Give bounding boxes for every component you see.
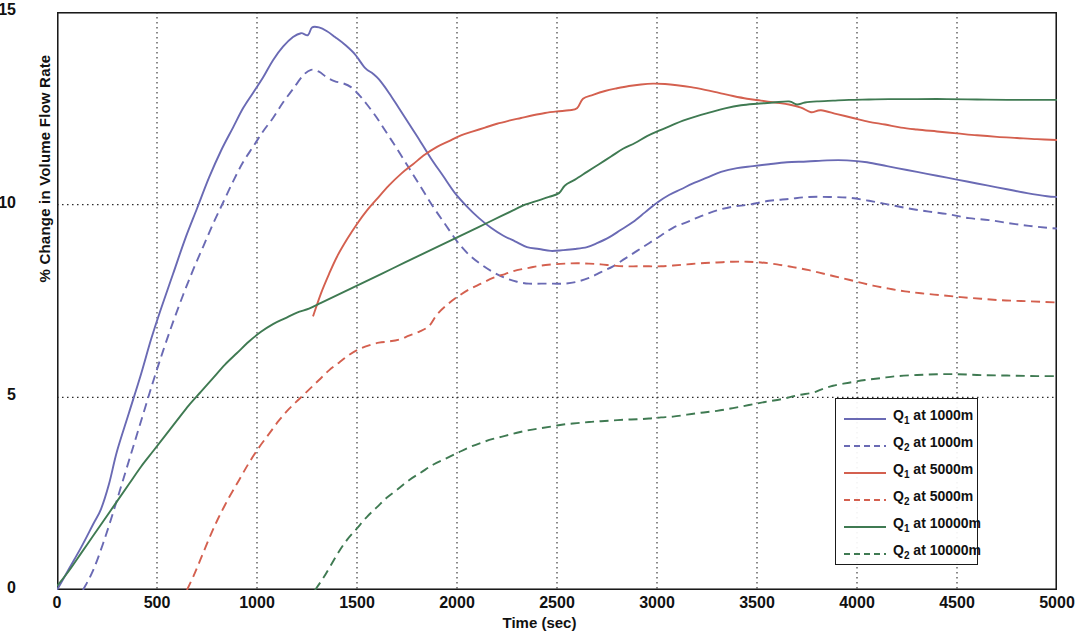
x-tick-label: 4500 <box>917 594 997 612</box>
legend-label: Q2 at 10000m <box>893 542 981 561</box>
legend-swatch <box>843 411 887 423</box>
chart-legend: Q1 at 1000mQ2 at 1000mQ1 at 5000mQ2 at 5… <box>835 398 978 565</box>
legend-label: Q1 at 1000m <box>893 407 973 426</box>
x-tick-label: 1500 <box>317 594 397 612</box>
x-tick-label: 0 <box>17 594 97 612</box>
x-tick-label: 5000 <box>1017 594 1079 612</box>
x-tick-label: 3500 <box>717 594 797 612</box>
y-tick-label: 10 <box>0 194 16 212</box>
legend-item-0: Q1 at 1000m <box>836 403 977 430</box>
x-tick-label: 3000 <box>617 594 697 612</box>
legend-label: Q1 at 10000m <box>893 515 981 534</box>
x-tick-label: 1000 <box>217 594 297 612</box>
series-line-2 <box>313 84 1057 317</box>
x-tick-label: 500 <box>117 594 197 612</box>
y-tick-label: 15 <box>0 1 16 19</box>
legend-label: Q2 at 5000m <box>893 488 973 507</box>
y-axis-label: % Change in Volume Flow Rate <box>36 29 53 309</box>
x-tick-label: 2000 <box>417 594 497 612</box>
legend-label: Q1 at 5000m <box>893 461 973 480</box>
legend-swatch <box>843 492 887 504</box>
legend-label: Q2 at 1000m <box>893 434 973 453</box>
x-tick-label: 4000 <box>817 594 897 612</box>
legend-swatch <box>843 438 887 450</box>
y-tick-label: 5 <box>0 386 16 404</box>
legend-swatch <box>843 519 887 531</box>
y-tick-label: 0 <box>0 579 16 597</box>
legend-item-1: Q2 at 1000m <box>836 430 977 457</box>
legend-item-5: Q2 at 10000m <box>836 538 977 565</box>
x-axis-label: Time (sec) <box>0 614 1079 631</box>
x-tick-label: 2500 <box>517 594 597 612</box>
legend-item-3: Q2 at 5000m <box>836 484 977 511</box>
legend-item-2: Q1 at 5000m <box>836 457 977 484</box>
legend-item-4: Q1 at 10000m <box>836 511 977 538</box>
legend-swatch <box>843 546 887 558</box>
legend-swatch <box>843 465 887 477</box>
chart-figure: % Change in Volume Flow Rate Time (sec) … <box>0 0 1079 643</box>
